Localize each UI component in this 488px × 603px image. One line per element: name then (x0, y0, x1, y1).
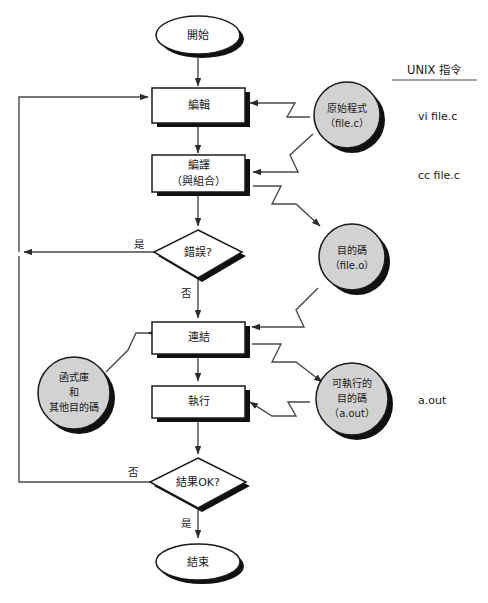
source-shape (314, 82, 380, 148)
node-compile[interactable]: 編譯 （與組合） (152, 155, 250, 196)
node-link[interactable]: 連結 (152, 322, 250, 358)
object-shape (319, 224, 385, 290)
flowchart-canvas: 開始 編輯 編譯 （與組合） 錯誤? 連結 執行 結果OK? (0, 0, 488, 603)
object-label-line1: 目的碼 (337, 244, 367, 256)
executable-label-line2: 目的碼 (337, 392, 367, 404)
edge-label-error-yes: 是 (134, 238, 145, 250)
link-label: 連結 (188, 330, 210, 344)
node-edit[interactable]: 編輯 (152, 88, 250, 127)
compile-label-line1: 編譯 (188, 158, 210, 172)
edge-label-error-no: 否 (181, 287, 192, 299)
edge-label-result-no: 否 (128, 466, 139, 478)
error-label: 錯誤? (184, 245, 212, 259)
library-label-line3: 其他目的碼 (49, 401, 99, 413)
node-run[interactable]: 執行 (152, 386, 250, 422)
start-label: 開始 (187, 28, 209, 42)
executable-label-line1: 可執行的 (332, 377, 372, 389)
result-label: 結果OK? (176, 475, 220, 489)
executable-label-line3: （a.out） (329, 408, 375, 419)
object-label-line2: （file.o） (330, 260, 375, 271)
unix-header-label: UNIX 指令 (407, 63, 462, 77)
flowchart-svg: 開始 編輯 編譯 （與組合） 錯誤? 連結 執行 結果OK? (0, 0, 488, 603)
library-label-line2: 和 (69, 387, 79, 398)
command-cc: cc file.c (418, 169, 460, 182)
edit-label: 編輯 (188, 98, 210, 112)
command-vi: vi file.c (418, 110, 457, 123)
library-label-line1: 函式庫 (59, 371, 89, 383)
end-label: 結束 (187, 555, 209, 569)
run-label: 執行 (188, 395, 210, 408)
compile-label-line2: （與組合） (171, 174, 226, 188)
source-label-line2: （file.c） (325, 118, 369, 129)
edge-label-result-yes: 是 (181, 517, 192, 529)
command-aout: a.out (418, 394, 447, 407)
source-label-line1: 原始程式 (327, 102, 367, 114)
